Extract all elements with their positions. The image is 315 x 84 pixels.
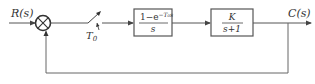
plant-block: K s+1: [211, 9, 253, 36]
plant-denominator: s+1: [223, 24, 241, 34]
plant-numerator: K: [228, 12, 237, 22]
output-label: C(s): [288, 7, 311, 20]
summing-junction: [36, 16, 51, 31]
sampler-label: T0: [86, 30, 98, 43]
zoh-denominator: s: [151, 24, 156, 34]
feedback-arrow-icon: [44, 31, 49, 37]
switch-icon: [88, 13, 99, 23]
block-diagram: R(s) T0 1−e−T₀s s K s+1 C(s): [0, 0, 315, 84]
sampler-switch: [88, 11, 101, 30]
input-label: R(s): [10, 7, 34, 20]
zoh-block: 1−e−T₀s s: [134, 9, 173, 36]
